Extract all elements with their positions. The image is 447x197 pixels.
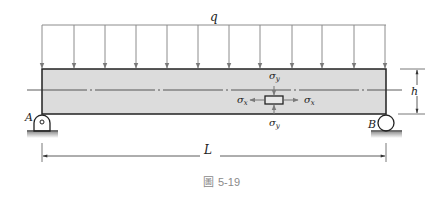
height-label: h	[411, 85, 418, 98]
roller-support-b: B	[367, 115, 402, 138]
caption-number: 5-19	[218, 176, 240, 188]
support-b-label: B	[367, 118, 376, 131]
beam	[42, 69, 386, 114]
length-dimension: L	[42, 143, 386, 162]
figure-caption: 圖 5-19	[203, 176, 240, 188]
distributed-load: q	[42, 10, 386, 68]
height-dimension: h	[398, 69, 425, 114]
sigma-y-bottom-label: σy	[269, 117, 281, 130]
load-label: q	[210, 10, 218, 24]
length-label: L	[203, 143, 212, 157]
support-a-label: A	[24, 111, 33, 124]
pin-support-a: A	[24, 111, 58, 138]
caption-prefix: 圖	[203, 176, 214, 188]
beam-diagram: q σy σy σx σx A B h	[0, 0, 447, 197]
